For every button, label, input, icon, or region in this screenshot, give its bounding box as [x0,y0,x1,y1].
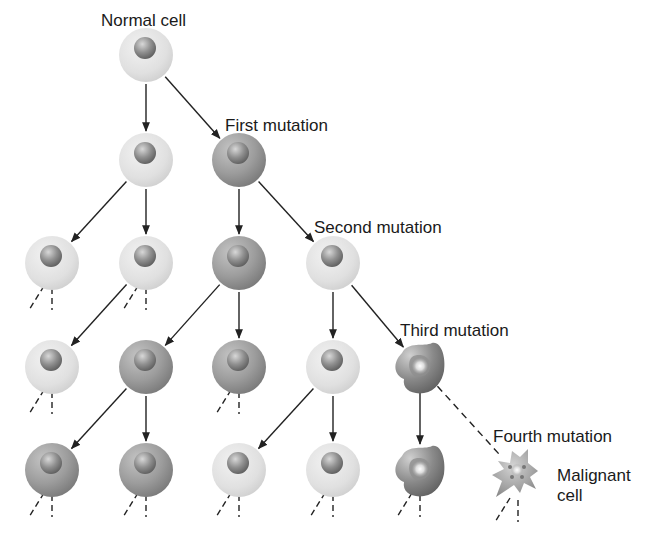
nucleus-icon [227,452,249,474]
cell-light [306,340,360,394]
nucleus-icon [40,452,62,474]
dashed-stub-diagonal [29,493,44,517]
nucleus-icon [40,349,62,371]
dashed-stub-diagonal [216,390,231,414]
nucleus-icon [227,245,249,267]
dashed-stub-diagonal [397,493,412,517]
lineage-arrow [165,285,219,346]
cell-dark [212,340,266,394]
label-malignant-cell: cell [557,487,583,506]
cell-light [212,443,266,497]
nucleus-icon [134,452,156,474]
nucleus-icon [134,142,156,164]
cell-light [119,236,173,290]
cell-light [306,443,360,497]
cell-dark [25,443,79,497]
cells-layer [25,28,538,497]
label-fourth-mutation: Fourth mutation [493,428,612,447]
lineage-arrow [165,77,220,139]
nucleus-icon [134,349,156,371]
nucleus-icon [321,349,343,371]
label-second-mutation: Second mutation [314,219,442,238]
cell-dark [212,236,266,290]
cell-light [119,28,173,82]
dashed-stub-diagonal [495,498,510,522]
label-normal-cell: Normal cell [101,12,186,31]
lineage-arrow [259,388,314,448]
dashed-stub-diagonal [310,493,325,517]
lineage-arrow [72,181,127,241]
nucleus-icon [511,464,523,476]
cell-dark [119,443,173,497]
label-third-mutation: Third mutation [400,322,509,341]
cell-light [25,236,79,290]
dashed-stub-diagonal [123,493,138,517]
lineage-arrow [71,285,126,346]
nucleus-icon [321,245,343,267]
cell-light [119,133,173,187]
nucleus-icon [40,245,62,267]
nucleus-icon [227,142,249,164]
lineage-arrow [72,388,127,448]
cell-light [306,236,360,290]
dashed-stub-diagonal [216,493,231,517]
cell-malignant [492,449,538,497]
lineage-arrow [352,285,404,347]
cell-light [25,340,79,394]
nucleus-icon [321,452,343,474]
label-malignant: Malignant [557,467,631,486]
cell-dark [212,133,266,187]
nucleus-icon [134,245,156,267]
dashed-stub-diagonal [29,390,44,414]
lineage-arrow [259,181,314,241]
label-first-mutation: First mutation [225,117,328,136]
dashed-stub-diagonal [29,286,44,310]
nucleus-icon [134,37,156,59]
nucleus-icon [227,349,249,371]
cell-dark [119,340,173,394]
dashed-stub-diagonal [123,286,138,310]
cell-irregular [395,446,444,497]
cell-irregular [395,343,444,394]
